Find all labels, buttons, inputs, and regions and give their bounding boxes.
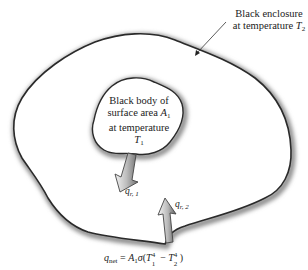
body-label-line3: at temperature [100,122,178,134]
enclosure-label-line2: at temperature T2 [230,20,308,35]
qr1-label: qr, 1 [125,185,139,200]
qr2-label: qr, 2 [175,198,189,213]
diagram-canvas: Black enclosure at temperature T2 Black … [0,0,308,270]
enclosure-label-line1: Black enclosure [230,8,308,20]
body-label-line4: T1 [100,134,178,150]
enclosure-label: Black enclosure at temperature T2 [230,8,308,35]
net-heat-equation: qnet = A1σ(T41 − T42) [104,252,183,267]
black-body-label: Black body of surface area A1 at tempera… [100,95,178,149]
body-label-line1: Black body of [100,95,178,107]
body-label-line2: surface area A1 [100,107,178,123]
